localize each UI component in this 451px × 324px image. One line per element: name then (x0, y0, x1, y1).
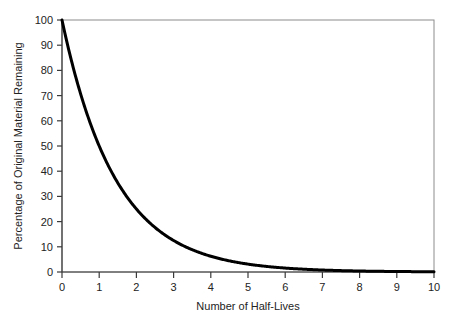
y-tick-label: 30 (41, 190, 53, 202)
y-tick-label: 80 (41, 64, 53, 76)
y-tick-label: 50 (41, 140, 53, 152)
y-tick-label: 100 (35, 14, 53, 26)
x-tick-label: 3 (171, 281, 177, 293)
y-tick-label: 60 (41, 115, 53, 127)
x-tick-label: 9 (394, 281, 400, 293)
x-tick-label: 4 (208, 281, 214, 293)
half-life-decay-chart: 0102030405060708090100 012345678910 Numb… (0, 0, 451, 324)
x-tick-label: 8 (357, 281, 363, 293)
chart-svg: 0102030405060708090100 012345678910 Numb… (0, 0, 451, 324)
x-tick-label: 6 (282, 281, 288, 293)
x-tick-label: 7 (319, 281, 325, 293)
x-axis-title: Number of Half-Lives (196, 300, 300, 312)
y-axis-title: Percentage of Original Material Remainin… (12, 42, 24, 249)
x-tick-label: 10 (428, 281, 440, 293)
y-axis-ticks: 0102030405060708090100 (35, 14, 62, 278)
y-tick-label: 0 (47, 266, 53, 278)
y-tick-label: 10 (41, 241, 53, 253)
x-tick-label: 5 (245, 281, 251, 293)
y-tick-label: 70 (41, 90, 53, 102)
x-axis-ticks: 012345678910 (59, 272, 440, 293)
y-tick-label: 40 (41, 165, 53, 177)
y-tick-label: 90 (41, 39, 53, 51)
x-tick-label: 2 (133, 281, 139, 293)
plot-area-border (62, 20, 434, 272)
x-tick-label: 0 (59, 281, 65, 293)
y-tick-label: 20 (41, 216, 53, 228)
x-tick-label: 1 (96, 281, 102, 293)
plot-frame (62, 20, 434, 272)
